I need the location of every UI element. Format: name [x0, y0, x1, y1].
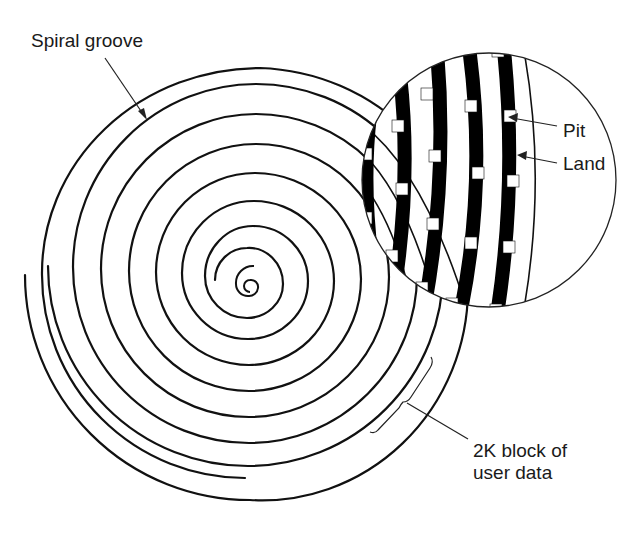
spiral-center — [236, 266, 258, 296]
pit-label: Pit — [563, 120, 585, 142]
spiral-groove-leader — [105, 58, 145, 117]
block-leader — [407, 403, 468, 439]
land-label: Land — [563, 153, 605, 175]
spiral-groove-label: Spiral groove — [31, 30, 143, 52]
magnified-view — [340, 40, 620, 320]
block-label-line1: 2K block of — [473, 440, 567, 462]
block-label: 2K block of user data — [473, 440, 567, 484]
block-label-line2: user data — [473, 462, 567, 484]
spiral-groove-arrowhead — [138, 108, 147, 120]
